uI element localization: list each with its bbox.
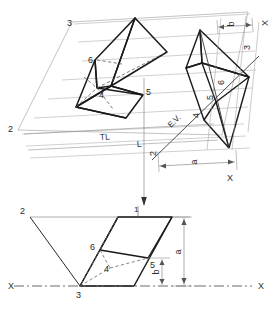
label-top-annot-2: 2 xyxy=(148,151,158,156)
dim-b-top-label: b xyxy=(226,21,236,26)
label-top-vertex-2: 2 xyxy=(8,124,13,134)
label-aux-vertex-3: 3 xyxy=(242,45,252,50)
label-x-top-right: X xyxy=(260,20,270,26)
dimension-a-front: a xyxy=(172,217,192,286)
dimension-b-top: b xyxy=(217,18,253,34)
label-aux-vertex-4: 4 xyxy=(191,113,201,118)
label-aux-vertex-5: 5 xyxy=(205,95,215,100)
drawing-sheet: b a 3 2 6 4 5 TL L E.V. 2 3 6 5 4 X X xyxy=(0,0,280,316)
label-true-length: TL xyxy=(99,131,110,142)
dim-b-front-label: b xyxy=(151,269,161,274)
label-front-vertex-2: 2 xyxy=(20,206,25,216)
engineering-drawing-canvas: b a 3 2 6 4 5 TL L E.V. 2 3 6 5 4 X X xyxy=(0,0,280,316)
label-top-vertex-3: 3 xyxy=(67,18,72,28)
label-x-left: X xyxy=(8,281,14,291)
solid-object-edges-right xyxy=(186,30,249,148)
label-x-right: X xyxy=(258,281,264,291)
label-top-vertex-4: 4 xyxy=(99,90,104,100)
label-front-annot-1: 1 xyxy=(134,205,139,214)
label-front-vertex-5: 5 xyxy=(150,260,155,270)
front-view-group: X X xyxy=(8,205,264,300)
label-aux-vertex-6: 6 xyxy=(216,80,226,85)
dimension-tl-band xyxy=(24,124,218,150)
label-front-vertex-4: 4 xyxy=(104,264,109,274)
dim-a-top-label: a xyxy=(189,159,199,164)
label-x-bottom-right: X xyxy=(227,173,233,183)
label-front-vertex-6: 6 xyxy=(90,242,95,252)
front-outline-triangle xyxy=(30,217,118,286)
label-front-vertex-3: 3 xyxy=(76,290,81,300)
projector-arrowhead xyxy=(141,197,147,206)
label-length: L xyxy=(136,139,142,149)
solid-object-edges-left xyxy=(76,18,167,118)
projection-band-lines xyxy=(22,14,256,158)
top-view-group: b a 3 2 6 4 5 TL L E.V. 2 3 6 5 4 X X xyxy=(8,12,270,206)
dim-a-front-label: a xyxy=(173,249,183,254)
label-top-vertex-6: 6 xyxy=(88,55,93,65)
label-top-vertex-5: 5 xyxy=(146,87,151,97)
dimension-a-top: a xyxy=(158,150,237,172)
